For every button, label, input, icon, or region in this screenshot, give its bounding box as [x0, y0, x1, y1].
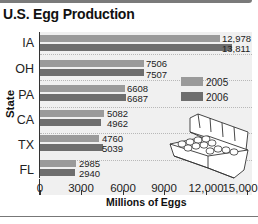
bar-ia-2006: [40, 44, 232, 51]
bar-fl-2005: [40, 160, 76, 167]
value-label: 12,978: [222, 34, 251, 43]
gridline: [40, 54, 252, 55]
x-tick-label: 0: [37, 182, 43, 194]
footer-rule: [0, 216, 258, 217]
x-axis-title: Millions of Eggs: [106, 196, 187, 208]
legend-swatch-2005: [181, 77, 203, 86]
egg-carton-icon: [168, 112, 252, 182]
bar-ia-2005: [40, 35, 220, 42]
value-label: 7506: [146, 59, 167, 68]
value-label: 5082: [107, 109, 128, 118]
x-tick-label: 15,000: [222, 182, 257, 194]
bar-fl-2006: [40, 169, 75, 176]
bar-ca-2006: [40, 119, 101, 126]
category-label: TX: [4, 138, 34, 152]
bar-tx-2005: [40, 135, 99, 142]
category-label: OH: [4, 62, 34, 76]
value-label: 5039: [102, 144, 123, 153]
bar-ca-2005: [40, 110, 104, 117]
legend-label-2006: 2006: [206, 92, 228, 103]
value-label: 4962: [107, 119, 128, 128]
value-label: 2985: [79, 159, 100, 168]
bar-oh-2005: [40, 60, 144, 67]
category-label: FL: [4, 163, 34, 177]
legend-swatch-2006: [181, 92, 203, 101]
value-label: 6608: [127, 84, 148, 93]
legend-label-2005: 2005: [206, 77, 228, 88]
x-tick-label: 12,000: [188, 182, 223, 194]
value-label: 4760: [102, 134, 123, 143]
bar-pa-2006: [40, 94, 126, 101]
chart-title: U.S. Egg Production: [3, 6, 135, 22]
value-label: 7507: [146, 70, 167, 79]
x-tick-label: 6000: [110, 182, 136, 194]
x-tick-label: 9000: [151, 182, 177, 194]
value-label: 13,811: [222, 44, 250, 53]
category-label: IA: [4, 36, 34, 50]
x-tick-label: 3000: [68, 182, 94, 194]
value-label: 6687: [127, 94, 148, 103]
value-label: 2940: [79, 169, 100, 178]
bar-oh-2006: [40, 69, 144, 76]
bar-tx-2006: [40, 144, 103, 151]
top-border: [0, 0, 252, 3]
gridline: [40, 107, 252, 108]
y-axis-title: State: [4, 90, 16, 118]
bar-pa-2005: [40, 85, 125, 92]
